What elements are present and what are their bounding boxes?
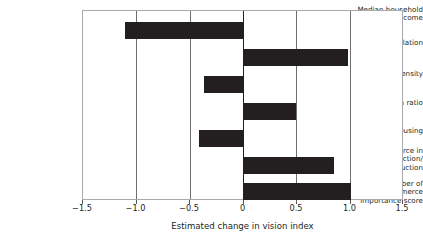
bar-median-household-income: [125, 22, 243, 39]
xtick-label--0.5: −0.5: [169, 203, 209, 213]
bar-city-population: [243, 49, 348, 66]
xtick-label--1.5: −1.5: [62, 203, 102, 213]
xtick-label-1.0: 1.0: [330, 203, 370, 213]
plot-area: [82, 10, 403, 200]
xtick-label--1.0: −1.0: [116, 203, 156, 213]
gridline-1.0: [350, 11, 351, 199]
bar-chart-figure: Median household income City population …: [0, 0, 423, 243]
bar-chamber-of-commerce-importance-score: [243, 183, 351, 200]
bar-population-density: [204, 76, 243, 93]
gridline--1.0: [136, 11, 137, 199]
bar-workforce-construction-production: [243, 157, 334, 174]
xtick-label-0: 0: [223, 203, 263, 213]
gridline--0.5: [190, 11, 191, 199]
xtick-label-1.5: 1.5: [382, 203, 422, 213]
bar-pre-1940-housing: [199, 130, 243, 147]
x-axis-title: Estimated change in vision index: [82, 221, 403, 231]
xtick-label-0.5: 0.5: [276, 203, 316, 213]
bar-job-population-ratio: [243, 103, 297, 120]
